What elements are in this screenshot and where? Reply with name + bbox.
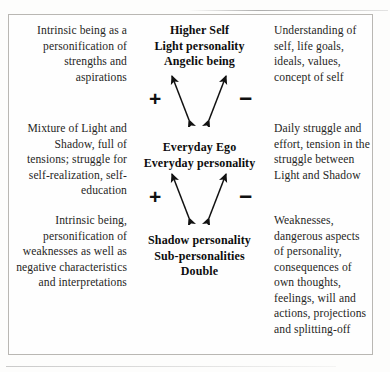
right-text-everyday-ego: Daily struggle and effort, tension in th… — [266, 113, 374, 183]
diagram-grid: Intrinsic being as a personification of … — [9, 15, 372, 354]
heading-shadow-personality-line-1: Shadow personality — [148, 233, 251, 249]
minus-sign-lower: – — [239, 184, 252, 207]
heading-shadow-personality-line-2: Sub-personalities — [148, 249, 251, 265]
plus-sign-lower: + — [149, 186, 161, 207]
heading-everyday-ego-line-1: Everyday Ego — [144, 140, 256, 156]
cell-left-everyday-ego: Mixture of Light and Shadow, full of ten… — [9, 113, 133, 205]
cell-left-higher-self: Intrinsic being as a personification of … — [9, 15, 133, 113]
cell-center-shadow-personality: Shadow personality Sub-personalities Dou… — [133, 205, 266, 356]
scan-artifact-line-top — [188, 10, 388, 11]
right-text-higher-self: Understanding of self, life goals, ideal… — [266, 15, 374, 85]
scan-artifact-line-bottom — [6, 366, 336, 367]
diagram-page: Intrinsic being as a personification of … — [0, 0, 390, 372]
plus-sign-upper: + — [149, 88, 161, 109]
left-text-shadow-personality: Intrinsic being, personification of weak… — [9, 205, 133, 291]
cell-right-everyday-ego: Daily struggle and effort, tension in th… — [266, 113, 374, 205]
heading-higher-self: Higher Self Light personality Angelic be… — [154, 15, 244, 70]
cell-right-shadow-personality: Weaknesses, dangerous aspects of persona… — [266, 205, 374, 356]
cell-center-higher-self: Higher Self Light personality Angelic be… — [133, 15, 266, 113]
heading-higher-self-line-3: Angelic being — [154, 54, 244, 70]
heading-higher-self-line-2: Light personality — [154, 39, 244, 55]
heading-shadow-personality-line-3: Double — [148, 264, 251, 280]
heading-everyday-ego-line-2: Everyday personality — [144, 156, 256, 172]
diagram-frame: Intrinsic being as a personification of … — [8, 14, 373, 355]
cell-right-higher-self: Understanding of self, life goals, ideal… — [266, 15, 374, 113]
right-text-shadow-personality: Weaknesses, dangerous aspects of persona… — [266, 205, 374, 337]
heading-shadow-personality: Shadow personality Sub-personalities Dou… — [148, 205, 251, 280]
cell-left-shadow-personality: Intrinsic being, personification of weak… — [9, 205, 133, 356]
left-text-higher-self: Intrinsic being as a personification of … — [9, 15, 133, 85]
minus-sign-upper: – — [239, 86, 252, 109]
heading-everyday-ego: Everyday Ego Everyday personality — [144, 140, 256, 171]
heading-higher-self-line-1: Higher Self — [154, 23, 244, 39]
left-text-everyday-ego: Mixture of Light and Shadow, full of ten… — [9, 113, 133, 199]
cell-center-everyday-ego: Everyday Ego Everyday personality + – — [133, 113, 266, 205]
